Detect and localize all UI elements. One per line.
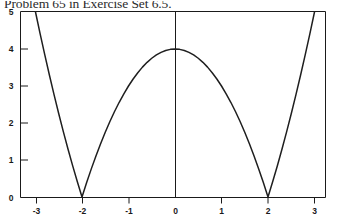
x-tick-label--2: -2 bbox=[79, 206, 87, 216]
x-tick-label-3: 3 bbox=[312, 206, 317, 216]
y-tick-marks bbox=[21, 49, 29, 160]
curve-abs-4-minus-x-squared bbox=[22, 0, 324, 197]
y-tick-label-2: 2 bbox=[9, 118, 14, 128]
function-graph: -3 -2 -1 0 1 2 3 0 1 3 2 4 5 bbox=[0, 0, 338, 221]
x-tick-label--3: -3 bbox=[33, 206, 41, 216]
y-tick-label-3: 3 bbox=[9, 81, 14, 91]
y-tick-label-4: 4 bbox=[9, 44, 14, 54]
x-tick-marks bbox=[37, 198, 315, 204]
x-tick-label--1: -1 bbox=[125, 206, 133, 216]
x-tick-label-1: 1 bbox=[219, 206, 224, 216]
y-tick-label-1: 1 bbox=[9, 155, 14, 165]
y-tick-label-0: 0 bbox=[9, 193, 14, 203]
plot-area: -3 -2 -1 0 1 2 3 0 1 3 2 4 5 bbox=[0, 0, 338, 221]
y-tick-label-5: 5 bbox=[9, 7, 14, 17]
x-tick-label-2: 2 bbox=[266, 206, 271, 216]
x-tick-label-0: 0 bbox=[173, 206, 178, 216]
